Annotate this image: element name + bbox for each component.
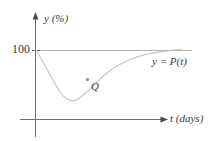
point-q-marker [86, 78, 89, 81]
x-axis-label: t (days) [170, 113, 203, 124]
y-tick-label-100: 100 [12, 43, 30, 55]
y-axis-label: y (%) [44, 13, 68, 24]
curve-equation-label: y = P(t) [152, 56, 187, 67]
point-q-label: Q [91, 81, 99, 92]
figure-container: y (%) t (days) 100 y = P(t) Q [0, 0, 211, 141]
point-q-text: Q [91, 80, 99, 92]
y-axis-arrow-icon [33, 12, 39, 20]
y-tick-label-100-text: 100 [12, 42, 30, 56]
y-axis-label-text: y (%) [44, 12, 68, 24]
x-axis-label-text: t (days) [170, 112, 203, 124]
curve-equation-text: y = P(t) [152, 55, 187, 67]
x-axis-arrow-icon [161, 117, 169, 123]
